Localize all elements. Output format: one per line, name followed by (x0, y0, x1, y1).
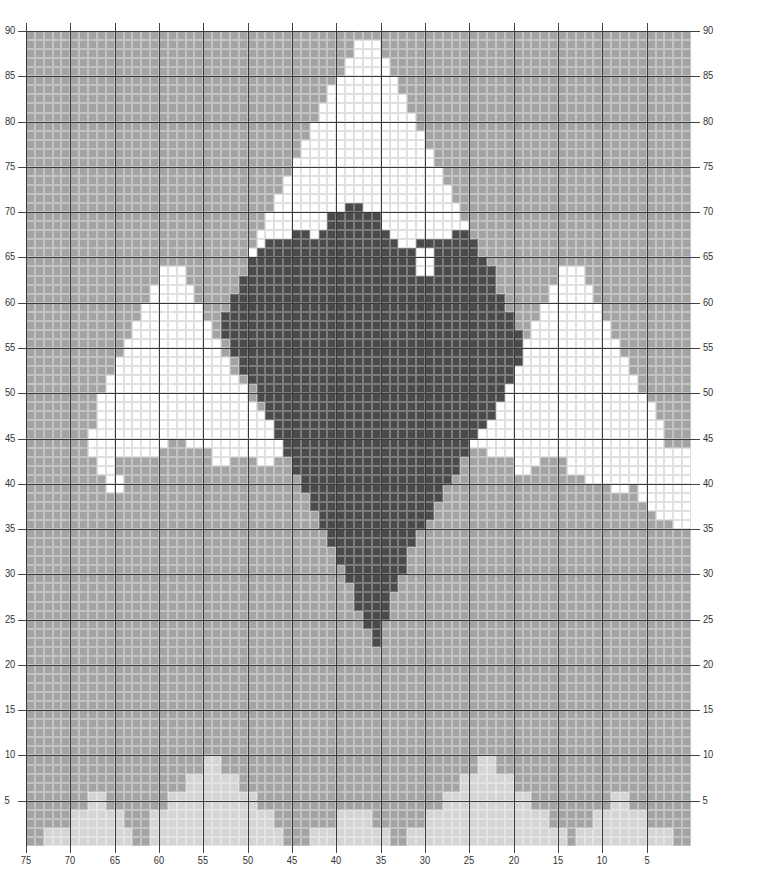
y-tick-mark (18, 122, 26, 123)
y-tick-label-right: 30 (703, 567, 713, 579)
x-tick-label: 5 (644, 854, 649, 866)
x-tick-mark-top (292, 23, 293, 31)
x-tick-mark-top (248, 23, 249, 31)
y-tick-mark (18, 76, 26, 77)
x-tick-mark (381, 846, 382, 853)
y-tick-label-left: 70 (5, 205, 15, 217)
x-tick-mark-top (336, 23, 337, 31)
y-tick-mark (691, 212, 700, 213)
x-tick-mark (558, 846, 559, 853)
y-tick-label-right: 35 (703, 522, 713, 534)
x-tick-mark-top (70, 23, 71, 31)
y-tick-label-right: 90 (703, 24, 713, 36)
y-tick-mark (691, 529, 700, 530)
x-tick-mark-top (381, 23, 382, 31)
y-tick-mark (691, 122, 700, 123)
y-tick-label-left: 35 (5, 522, 15, 534)
y-tick-label-left: 50 (5, 386, 15, 398)
y-tick-label-right: 75 (703, 160, 713, 172)
x-tick-mark (159, 846, 160, 853)
x-tick-label: 10 (597, 854, 607, 866)
x-tick-mark-top (26, 23, 27, 31)
x-tick-mark (647, 846, 648, 853)
x-tick-mark-top (469, 23, 470, 31)
x-tick-mark-top (514, 23, 515, 31)
y-tick-label-right: 5 (702, 794, 707, 806)
y-tick-label-left: 10 (5, 748, 15, 760)
y-tick-label-left: 60 (5, 296, 15, 308)
y-tick-label-right: 60 (703, 296, 713, 308)
x-tick-label: 45 (287, 854, 297, 866)
y-tick-mark (18, 348, 26, 349)
y-tick-label-left: 25 (5, 613, 15, 625)
x-tick-label: 20 (508, 854, 518, 866)
y-tick-label-left: 85 (5, 69, 15, 81)
y-tick-mark (691, 439, 700, 440)
x-tick-mark (336, 846, 337, 853)
x-tick-mark-top (647, 23, 648, 31)
y-tick-mark (691, 393, 700, 394)
y-tick-mark (18, 755, 26, 756)
y-tick-mark (691, 76, 700, 77)
y-tick-label-right: 50 (703, 386, 713, 398)
y-tick-label-left: 90 (5, 24, 15, 36)
y-tick-label-left: 20 (5, 658, 15, 670)
y-tick-label-left: 5 (4, 794, 9, 806)
y-tick-label-right: 45 (703, 432, 713, 444)
x-tick-mark (203, 846, 204, 853)
y-tick-mark (691, 620, 700, 621)
x-tick-label: 50 (242, 854, 252, 866)
x-tick-mark-top (203, 23, 204, 31)
y-tick-mark (691, 348, 700, 349)
y-tick-mark (691, 484, 700, 485)
y-tick-mark (18, 167, 26, 168)
y-tick-mark (18, 439, 26, 440)
y-tick-mark (18, 393, 26, 394)
x-tick-label: 55 (198, 854, 208, 866)
y-tick-label-left: 65 (5, 250, 15, 262)
x-tick-label: 40 (331, 854, 341, 866)
x-tick-mark (425, 846, 426, 853)
y-tick-label-right: 85 (703, 69, 713, 81)
chart-canvas (26, 31, 691, 846)
y-tick-mark (691, 303, 700, 304)
y-tick-label-right: 10 (703, 748, 713, 760)
x-tick-mark (292, 846, 293, 853)
y-tick-label-right: 80 (703, 115, 713, 127)
x-tick-mark-top (602, 23, 603, 31)
y-tick-label-left: 45 (5, 432, 15, 444)
x-tick-label: 25 (464, 854, 474, 866)
x-tick-label: 60 (154, 854, 164, 866)
y-tick-mark (18, 801, 26, 802)
y-tick-label-left: 40 (5, 477, 15, 489)
y-tick-label-left: 15 (5, 703, 15, 715)
y-tick-label-right: 15 (703, 703, 713, 715)
y-tick-mark (18, 257, 26, 258)
y-tick-mark (18, 665, 26, 666)
x-tick-label: 75 (21, 854, 31, 866)
x-tick-mark (115, 846, 116, 853)
y-tick-mark (691, 710, 700, 711)
y-tick-mark (691, 665, 700, 666)
y-tick-mark (691, 801, 700, 802)
stitch-chart-grid (26, 31, 691, 846)
y-tick-mark (18, 620, 26, 621)
y-tick-mark (18, 529, 26, 530)
y-tick-mark (691, 755, 700, 756)
y-tick-label-left: 55 (5, 341, 15, 353)
y-tick-mark (18, 710, 26, 711)
y-tick-label-right: 65 (703, 250, 713, 262)
x-tick-label: 15 (553, 854, 563, 866)
y-tick-label-right: 20 (703, 658, 713, 670)
x-tick-label: 70 (65, 854, 75, 866)
y-tick-mark (691, 257, 700, 258)
y-tick-mark (18, 574, 26, 575)
y-tick-mark (18, 484, 26, 485)
y-tick-label-right: 40 (703, 477, 713, 489)
x-tick-mark-top (159, 23, 160, 31)
y-tick-label-right: 25 (703, 613, 713, 625)
x-tick-mark (469, 846, 470, 853)
y-tick-mark (18, 212, 26, 213)
y-tick-label-left: 80 (5, 115, 15, 127)
y-tick-mark (18, 303, 26, 304)
